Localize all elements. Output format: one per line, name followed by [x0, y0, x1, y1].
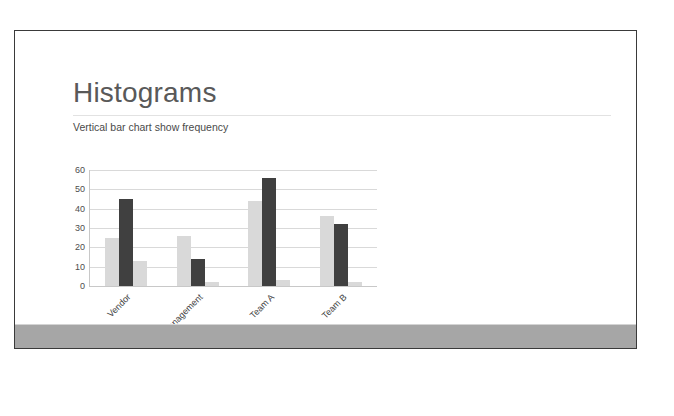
chart-bars [90, 170, 377, 286]
bar [133, 261, 147, 286]
y-axis-tick-label: 20 [75, 242, 85, 252]
bar-group [320, 170, 362, 286]
page-subtitle: Vertical bar chart show frequency [73, 121, 228, 133]
x-axis-tick-label: Vendor [106, 292, 133, 319]
bar [177, 236, 191, 286]
bar [262, 178, 276, 286]
y-axis-tick-label: 30 [75, 223, 85, 233]
y-axis-tick-label: 10 [75, 262, 85, 272]
y-axis-tick-label: 50 [75, 184, 85, 194]
y-axis-tick-label: 0 [80, 281, 85, 291]
chart-plot-area: 0102030405060 VendorManagementTeam ATeam… [89, 170, 377, 287]
bar [320, 216, 334, 286]
bar [105, 238, 119, 286]
bar [119, 199, 133, 286]
bar [205, 282, 219, 286]
slide-footer-bar [15, 324, 636, 348]
slide: Histograms Vertical bar chart show frequ… [14, 30, 637, 349]
x-axis-tick-label: Team A [248, 292, 276, 320]
bar [334, 224, 348, 286]
bar-group [177, 170, 219, 286]
bar [348, 282, 362, 286]
bar [191, 259, 205, 286]
y-axis-tick-label: 40 [75, 204, 85, 214]
x-axis-tick-label: Team B [320, 292, 349, 321]
bar-chart: 0102030405060 VendorManagementTeam ATeam… [59, 166, 389, 336]
slide-body: Histograms Vertical bar chart show frequ… [15, 31, 636, 348]
bar [248, 201, 262, 286]
title-divider [73, 115, 611, 116]
bar [276, 280, 290, 286]
bar-group [105, 170, 147, 286]
y-axis-tick-label: 60 [75, 165, 85, 175]
bar-group [248, 170, 290, 286]
page-title: Histograms [73, 77, 217, 109]
